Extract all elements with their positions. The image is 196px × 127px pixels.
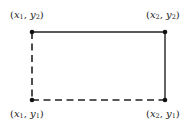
vertex-bottom-left <box>30 98 35 103</box>
label-bottom-right: (x2, y1) <box>146 109 180 120</box>
vertex-top-right <box>163 30 168 35</box>
label-top-left: (x1, y2) <box>10 10 44 21</box>
label-top-right: (x2, y2) <box>146 10 180 21</box>
label-bottom-left: (x1, y1) <box>10 109 44 120</box>
vertex-top-left <box>30 30 35 35</box>
vertex-bottom-right <box>163 98 168 103</box>
rectangle-diagram: (x1, y2) (x2, y2) (x1, y1) (x2, y1) <box>0 0 196 127</box>
